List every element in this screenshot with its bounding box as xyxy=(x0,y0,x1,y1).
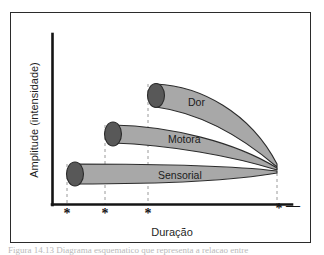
tick-marker-motora: * xyxy=(102,206,109,221)
cone-label-motora: Motora xyxy=(168,133,201,145)
tick-marker-end: * xyxy=(276,201,283,216)
figure-caption-clipped: Figura 14.13 Diagrama esquematico que re… xyxy=(8,247,308,255)
cone-sensorial-cap-ellipse xyxy=(67,162,84,186)
tick-marker-sensorial: * xyxy=(64,206,71,221)
end-dash-marker: — xyxy=(285,198,301,213)
x-axis-tick-markers: * * * * — xyxy=(64,198,302,221)
cone-motora-cap-ellipse xyxy=(105,122,122,146)
tick-marker-dor: * xyxy=(145,206,152,221)
x-axis-label: Duração xyxy=(151,226,193,238)
nerve-fiber-recruitment-chart: Dor Motora Sensorial * * * * — Duraçã xyxy=(10,12,311,243)
y-axis-label: Amplitude (intensidade) xyxy=(28,62,40,178)
cone-label-sensorial: Sensorial xyxy=(158,169,202,181)
figure-root: Dor Motora Sensorial * * * * — Duraçã xyxy=(0,0,324,255)
figure-caption-text: Figura 14.13 Diagrama esquematico que re… xyxy=(8,247,308,255)
cone-label-dor: Dor xyxy=(188,96,205,108)
cone-sensorial: Sensorial xyxy=(67,162,278,186)
cone-dor-cap-ellipse xyxy=(148,84,165,108)
